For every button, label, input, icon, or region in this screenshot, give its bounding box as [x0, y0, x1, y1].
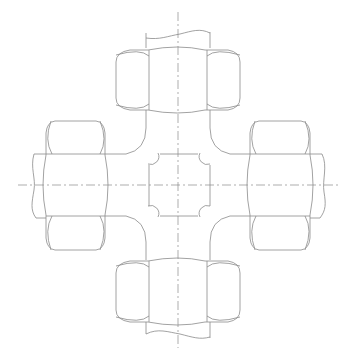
right-hex-nut — [247, 121, 313, 250]
cross-body-outline — [105, 128, 250, 260]
centerlines — [18, 12, 338, 348]
cross-fitting-drawing — [0, 0, 345, 357]
left-pipe-stub — [32, 154, 46, 218]
right-pipe-stub — [310, 154, 325, 218]
left-hex-nut — [43, 121, 108, 250]
